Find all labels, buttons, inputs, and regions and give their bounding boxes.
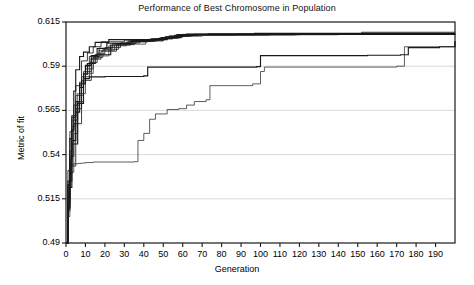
y-tick-label: 0.59 — [42, 60, 60, 70]
x-axis-title: Generation — [0, 264, 474, 274]
y-tick-label: 0.54 — [42, 149, 60, 159]
gridlines — [66, 66, 455, 199]
y-tick-label: 0.565 — [37, 104, 60, 114]
y-tick-label: 0.515 — [37, 193, 60, 203]
y-tick-label: 0.615 — [37, 16, 60, 26]
chart-figure: Performance of Best Chromosome in Popula… — [0, 0, 474, 285]
x-tick-label: 190 — [424, 249, 448, 259]
series-lines — [66, 32, 455, 243]
y-axis-title: Metric of fit — [16, 116, 26, 160]
y-tick-label: 0.49 — [42, 237, 60, 247]
plot-area — [0, 0, 474, 285]
